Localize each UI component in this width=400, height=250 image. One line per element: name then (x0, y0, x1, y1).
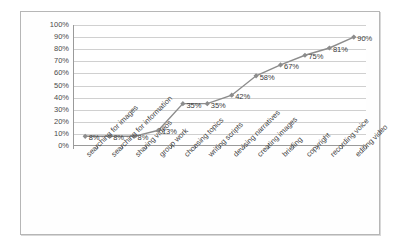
data-point-marker (205, 101, 210, 106)
y-axis-tick-label: 60% (54, 70, 69, 78)
chart-container: 100%90%80%70%60%50%40%30%20%10%0% 8%8%8%… (20, 11, 380, 235)
data-point-label: 42% (235, 93, 250, 101)
x-axis-category-labels: searching for imagessearching for inform… (73, 147, 366, 242)
y-axis-tick-label: 10% (54, 130, 69, 138)
data-point-label: 35% (186, 102, 201, 110)
data-point-label: 67% (284, 63, 299, 71)
data-point-marker (351, 35, 356, 40)
data-point-label: 58% (260, 74, 275, 82)
y-axis-tick-label: 100% (50, 21, 69, 29)
y-axis-tick-label: 50% (54, 82, 69, 90)
data-point-marker (327, 45, 332, 50)
y-axis-tick-label: 30% (54, 106, 69, 114)
data-point-label: 90% (357, 35, 372, 43)
data-point-marker (83, 134, 88, 139)
data-point-label: 81% (333, 46, 348, 54)
y-axis-tick-label: 90% (54, 33, 69, 41)
data-point-marker (302, 53, 307, 58)
data-point-label: 35% (211, 102, 226, 110)
y-axis-tick-label: 40% (54, 94, 69, 102)
data-point-marker (278, 62, 283, 67)
data-point-label: 75% (308, 53, 323, 61)
y-axis-tick-label: 80% (54, 45, 69, 53)
y-axis-tick-label: 20% (54, 118, 69, 126)
y-axis-tick-label: 0% (58, 142, 69, 150)
y-axis-tick-label: 70% (54, 58, 69, 66)
